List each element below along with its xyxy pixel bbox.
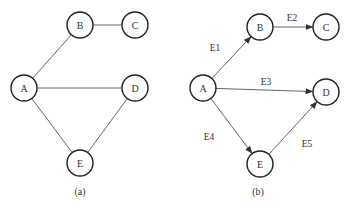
node-d: D [122, 75, 148, 101]
edge-label: E1 [210, 43, 221, 53]
node-label: D [322, 87, 329, 98]
graph-diagram: ABCDE(a) E1E2E3E4E5ABCDE(b) [0, 0, 350, 206]
node-label: E [77, 158, 83, 169]
node-e: E [67, 150, 93, 176]
node-label: B [77, 20, 84, 31]
edge-label: E2 [287, 13, 298, 23]
edge-a-e [32, 98, 72, 152]
edge-a-d [216, 88, 313, 91]
node-label: A [199, 83, 207, 94]
edge-label: E4 [204, 132, 215, 142]
node-b: B [247, 14, 273, 40]
node-label: C [323, 22, 330, 33]
node-e: E [247, 151, 273, 177]
node-c: C [313, 14, 339, 40]
node-c: C [122, 12, 148, 38]
node-d: D [313, 79, 339, 105]
node-label: E [257, 159, 263, 170]
edge-label: E3 [261, 77, 272, 87]
node-a: A [11, 75, 37, 101]
node-b: B [67, 12, 93, 38]
figure-caption-b: (b) [252, 186, 264, 198]
edge-a-e [211, 98, 252, 153]
directed-graph-b: E1E2E3E4E5ABCDE(b) [190, 13, 339, 198]
edge-a-b [33, 35, 72, 79]
node-label: A [20, 83, 28, 94]
node-label: B [257, 22, 264, 33]
node-label: D [131, 83, 138, 94]
edge-label: E5 [302, 139, 313, 149]
undirected-graph-a: ABCDE(a) [11, 12, 148, 198]
node-label: C [132, 20, 139, 31]
figure-caption-a: (a) [74, 186, 85, 198]
node-a: A [190, 75, 216, 101]
edge-e-d [88, 98, 128, 152]
